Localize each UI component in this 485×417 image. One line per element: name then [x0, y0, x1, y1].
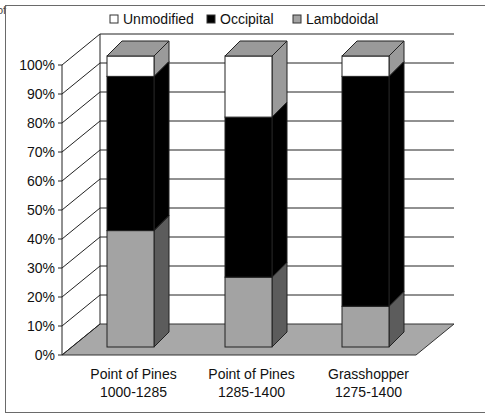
x-category-label: 1285-1400	[218, 384, 285, 400]
side-wall-gridline	[62, 63, 100, 94]
y-tick-label: 20%	[27, 289, 55, 305]
bar-side-occipital	[272, 102, 287, 277]
side-wall-gridline	[62, 121, 100, 152]
x-category-label: 1275-1400	[335, 384, 402, 400]
legend-swatch-unmodified	[110, 15, 118, 23]
legend-label: Unmodified	[123, 11, 194, 27]
bar-segment-unmodified	[342, 56, 389, 76]
x-category-label: Point of Pines	[90, 366, 176, 382]
y-tick-label: 50%	[27, 202, 55, 218]
y-tick-label: 100%	[19, 57, 55, 73]
y-tick-label: 30%	[27, 260, 55, 276]
bar-side-lambdoidal	[154, 216, 169, 347]
y-tick-label: 90%	[27, 86, 55, 102]
bar-segment-unmodified	[225, 56, 272, 117]
bar-segment-occipital	[342, 76, 389, 306]
chart-legend: UnmodifiedOccipitalLambdoidal	[110, 11, 378, 27]
bar-segment-lambdoidal	[225, 277, 272, 347]
legend-swatch-lambdoidal	[293, 15, 301, 23]
x-category-label: Point of Pines	[208, 366, 294, 382]
y-tick-label: 70%	[27, 144, 55, 160]
bars	[107, 41, 404, 347]
y-axis: 0%10%20%30%40%50%60%70%80%90%100%	[19, 57, 62, 363]
bar-segment-lambdoidal	[107, 231, 154, 347]
y-tick-label: 0%	[35, 347, 55, 363]
bar-segment-occipital	[107, 76, 154, 230]
bar-2	[225, 41, 287, 347]
side-wall-gridline	[62, 266, 100, 297]
side-wall-gridline	[62, 34, 100, 65]
y-tick-label: 60%	[27, 173, 55, 189]
side-wall-gridline	[62, 237, 100, 268]
x-axis: Point of Pines1000-1285Point of Pines128…	[90, 366, 409, 400]
side-wall-gridline	[62, 179, 100, 210]
side-wall-gridline	[62, 92, 100, 123]
x-category-label: Grasshopper	[328, 366, 409, 382]
bar-segment-occipital	[225, 117, 272, 277]
bar-segment-unmodified	[107, 56, 154, 76]
bar-3	[342, 41, 404, 347]
legend-swatch-occipital	[207, 15, 215, 23]
legend-label: Occipital	[220, 11, 274, 27]
bar-side-occipital	[154, 61, 169, 230]
y-tick-label: 10%	[27, 318, 55, 334]
side-wall-gridline	[62, 295, 100, 326]
side-wall-gridline	[62, 208, 100, 239]
side-wall-gridline	[62, 150, 100, 181]
bar-1	[107, 41, 169, 347]
y-tick-label: 40%	[27, 231, 55, 247]
bar-segment-lambdoidal	[342, 306, 389, 347]
legend-label: Lambdoidal	[306, 11, 378, 27]
y-tick-label: 80%	[27, 115, 55, 131]
bar-side-occipital	[389, 61, 404, 306]
x-category-label: 1000-1285	[100, 384, 167, 400]
